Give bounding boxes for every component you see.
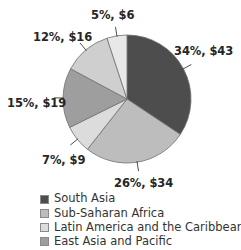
slice-value-label: 7%, $9	[42, 155, 85, 167]
legend-item[interactable]: East Asia and Pacific	[40, 235, 241, 249]
legend-swatch-icon	[40, 195, 49, 204]
slice-leader-line	[115, 27, 117, 37]
legend-swatch-icon	[40, 223, 49, 232]
legend-swatch-icon	[40, 237, 49, 246]
slice-leader-line	[70, 139, 78, 145]
slice-leader-line	[183, 65, 192, 70]
slice-value-label: 12%, $16	[33, 32, 92, 44]
legend-item[interactable]: Latin America and the Caribbean	[40, 220, 241, 234]
legend-item[interactable]: Sub-Saharan Africa	[40, 206, 241, 220]
legend-item-label: East Asia and Pacific	[54, 236, 172, 248]
legend-swatch-icon	[40, 209, 49, 218]
slice-value-label: 15%, $19	[7, 98, 66, 110]
slice-value-label: 5%, $6	[91, 10, 134, 22]
legend-item-label: Sub-Saharan Africa	[54, 208, 164, 220]
slice-value-label: 34%, $43	[174, 46, 233, 58]
legend-item[interactable]: South Asia	[40, 192, 241, 206]
chart-legend: South AsiaSub-Saharan AfricaLatin Americ…	[40, 192, 241, 249]
pie-chart-figure: 34%, $4326%, $347%, $915%, $1912%, $165%…	[0, 0, 241, 250]
slice-value-label: 26%, $34	[114, 178, 173, 190]
slice-leader-line	[80, 43, 86, 51]
pie-slice-group	[63, 35, 191, 163]
legend-item-label: Latin America and the Caribbean	[54, 222, 241, 234]
slice-leader-line	[137, 161, 139, 171]
legend-item-label: South Asia	[54, 193, 115, 205]
